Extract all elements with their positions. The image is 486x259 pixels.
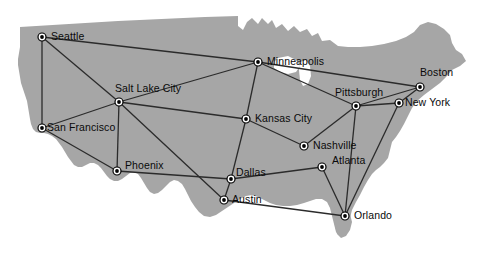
city-label-new-york: New York — [405, 97, 450, 108]
node-atlanta[interactable] — [320, 165, 324, 169]
city-label-nashville: Nashville — [313, 140, 357, 151]
city-label-seattle: Seattle — [51, 31, 84, 42]
node-phoenix[interactable] — [115, 169, 119, 173]
node-san-francisco[interactable] — [40, 126, 44, 130]
city-label-boston: Boston — [420, 67, 453, 78]
city-label-dallas: Dallas — [236, 167, 266, 178]
node-austin[interactable] — [222, 198, 226, 202]
node-orlando[interactable] — [343, 214, 347, 218]
city-label-san-francisco: San Francisco — [47, 122, 115, 133]
city-label-phoenix: Phoenix — [125, 160, 164, 171]
node-dallas[interactable] — [229, 177, 233, 181]
node-pittsburgh[interactable] — [354, 104, 358, 108]
node-boston[interactable] — [418, 85, 422, 89]
city-label-orlando: Orlando — [354, 210, 392, 221]
node-seattle[interactable] — [40, 35, 44, 39]
network-map-figure: SeattleSalt Lake CitySan FranciscoPhoeni… — [0, 0, 486, 259]
node-salt-lake-city[interactable] — [117, 100, 121, 104]
city-label-kansas-city: Kansas City — [255, 113, 312, 124]
city-label-atlanta: Atlanta — [332, 155, 365, 166]
city-label-salt-lake-city: Salt Lake City — [115, 83, 181, 94]
node-minneapolis[interactable] — [256, 60, 260, 64]
node-kansas-city[interactable] — [244, 117, 248, 121]
node-nashville[interactable] — [302, 144, 306, 148]
city-label-minneapolis: Minneapolis — [267, 56, 324, 67]
city-label-pittsburgh: Pittsburgh — [335, 87, 383, 98]
node-new-york[interactable] — [397, 101, 401, 105]
city-label-austin: Austin — [232, 194, 262, 205]
